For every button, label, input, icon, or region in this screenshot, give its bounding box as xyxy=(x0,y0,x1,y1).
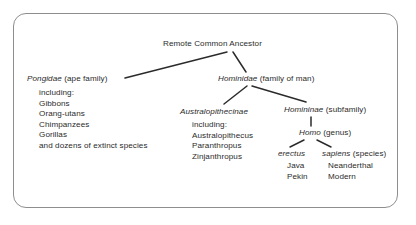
node-pongidae: Pongidae (ape family) xyxy=(27,74,107,85)
node-pongidae-descriptor: (ape family) xyxy=(62,74,108,83)
list-item: Zinjanthropus xyxy=(192,152,253,163)
node-remote-common-ancestor: Remote Common Ancestor xyxy=(163,39,262,50)
list-erectus-members: Java Pekin xyxy=(287,161,308,182)
node-hominidae: Hominidae (family of man) xyxy=(218,74,314,85)
node-sapiens-descriptor: (species) xyxy=(350,149,386,158)
list-sapiens-members: Neanderthal Modern xyxy=(328,161,373,182)
list-australopithecinae-members: including: Australopithecus Paranthropus… xyxy=(192,120,253,162)
node-homininae-scientific-name: Homininae xyxy=(284,105,323,114)
node-pongidae-scientific-name: Pongidae xyxy=(27,74,62,83)
node-homo-descriptor: (genus) xyxy=(321,128,351,137)
node-homininae: Homininae (subfamily) xyxy=(284,105,366,116)
list-item: Gibbons xyxy=(39,99,148,110)
list-item: and dozens of extinct species xyxy=(39,141,148,152)
node-hominidae-scientific-name: Hominidae xyxy=(218,74,257,83)
node-sapiens: sapiens (species) xyxy=(322,149,386,160)
list-item: Paranthropus xyxy=(192,141,253,152)
node-homo-scientific-name: Homo xyxy=(299,128,321,137)
node-australopithecinae: Australopithecinae xyxy=(180,107,248,118)
figure-root: Remote Common Ancestor Pongidae (ape fam… xyxy=(0,0,416,225)
list-item: Modern xyxy=(328,172,373,183)
list-item: Australopithecus xyxy=(192,131,253,142)
node-erectus: erectus xyxy=(278,149,305,160)
node-australopithecinae-scientific-name: Australopithecinae xyxy=(180,107,248,116)
node-sapiens-scientific-name: sapiens xyxy=(322,149,350,158)
list-item: Chimpanzees xyxy=(39,120,148,131)
list-item: Java xyxy=(287,161,308,172)
node-erectus-scientific-name: erectus xyxy=(278,149,305,158)
node-homininae-descriptor: (subfamily) xyxy=(323,105,366,114)
list-pongidae-intro: including: xyxy=(39,88,148,99)
node-hominidae-descriptor: (family of man) xyxy=(257,74,314,83)
list-item: Gorillas xyxy=(39,130,148,141)
list-item: Neanderthal xyxy=(328,161,373,172)
node-homo: Homo (genus) xyxy=(299,128,351,139)
list-pongidae-members: including: Gibbons Orang-utans Chimpanze… xyxy=(39,88,148,152)
node-remote-common-ancestor-label: Remote Common Ancestor xyxy=(163,39,262,48)
list-item: Pekin xyxy=(287,172,308,183)
list-australopithecinae-intro: including: xyxy=(192,120,253,131)
list-item: Orang-utans xyxy=(39,109,148,120)
